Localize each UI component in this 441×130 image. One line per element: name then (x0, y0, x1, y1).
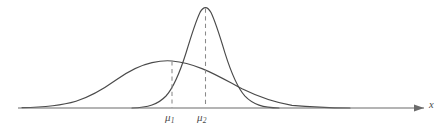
x-axis-arrowhead (414, 105, 424, 112)
distribution-plot (0, 0, 441, 130)
mu2-subscript: 2 (203, 116, 207, 125)
x-axis-label: x (429, 100, 434, 111)
mu1-subscript: 1 (171, 116, 175, 125)
mu1-symbol: μ (165, 111, 171, 123)
normal-curves-figure: μ1 μ2 x (0, 0, 441, 130)
mu2-symbol: μ (197, 111, 203, 123)
mu2-label: μ2 (197, 112, 206, 123)
broad-normal-curve (22, 61, 350, 108)
mu1-label: μ1 (165, 112, 174, 123)
